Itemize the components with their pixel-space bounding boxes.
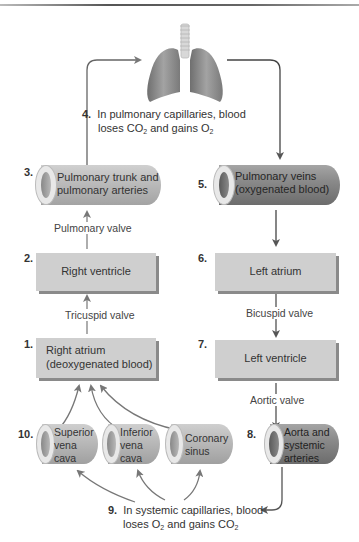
step-6-number: 6.	[198, 252, 207, 264]
lungs-icon	[140, 20, 230, 105]
pulmonary-valve-label: Pulmonary valve	[52, 222, 134, 234]
left-lung	[147, 48, 180, 102]
arrow-cap-to-svc	[78, 471, 135, 502]
aortic-valve-label: Aortic valve	[248, 394, 306, 406]
left-ventricle-box: Left ventricle	[215, 340, 336, 378]
step-number: 9.	[108, 504, 117, 516]
arrow-cap-to-ivc	[138, 471, 165, 500]
trachea	[181, 24, 189, 58]
step-5-number: 5.	[198, 178, 207, 190]
step-2-number: 2.	[24, 252, 33, 264]
step-3-number: 3.	[24, 166, 33, 178]
right-atrium-box: Right atrium (deoxygenated blood)	[36, 338, 156, 378]
step-1-number: 1.	[24, 338, 33, 350]
step-9-caption: 9.In systemic capillaries, blood loses O…	[108, 503, 263, 532]
aorta-vessel: Aorta and systemic arteries	[264, 424, 339, 464]
left-atrium-box: Left atrium	[215, 253, 336, 291]
bicuspid-valve-label: Bicuspid valve	[244, 307, 315, 319]
step-number: 4.	[82, 108, 91, 120]
step-4-caption: 4.In pulmonary capillaries, blood loses …	[82, 107, 246, 136]
coronary-sinus-vessel: Coronary sinus	[165, 424, 233, 464]
step-8-number: 8.	[247, 428, 256, 440]
right-ventricle-box: Right ventricle	[36, 253, 156, 291]
step-10-number: 10.	[18, 428, 33, 440]
pulmonary-veins-vessel: Pulmonary veins (oxygenated blood)	[213, 165, 340, 205]
arrow-cap-to-cs	[184, 471, 200, 500]
superior-vena-cava-vessel: Superior vena cava	[36, 424, 98, 464]
right-lung	[190, 48, 223, 102]
pulmonary-trunk-vessel: Pulmonary trunk and pulmonary arteries	[35, 165, 161, 205]
inferior-vena-cava-vessel: Inferior vena cava	[102, 424, 160, 464]
step-7-number: 7.	[198, 338, 207, 350]
arrow-aorta-to-capillaries	[262, 467, 282, 510]
tricuspid-valve-label: Tricuspid valve	[63, 309, 137, 321]
